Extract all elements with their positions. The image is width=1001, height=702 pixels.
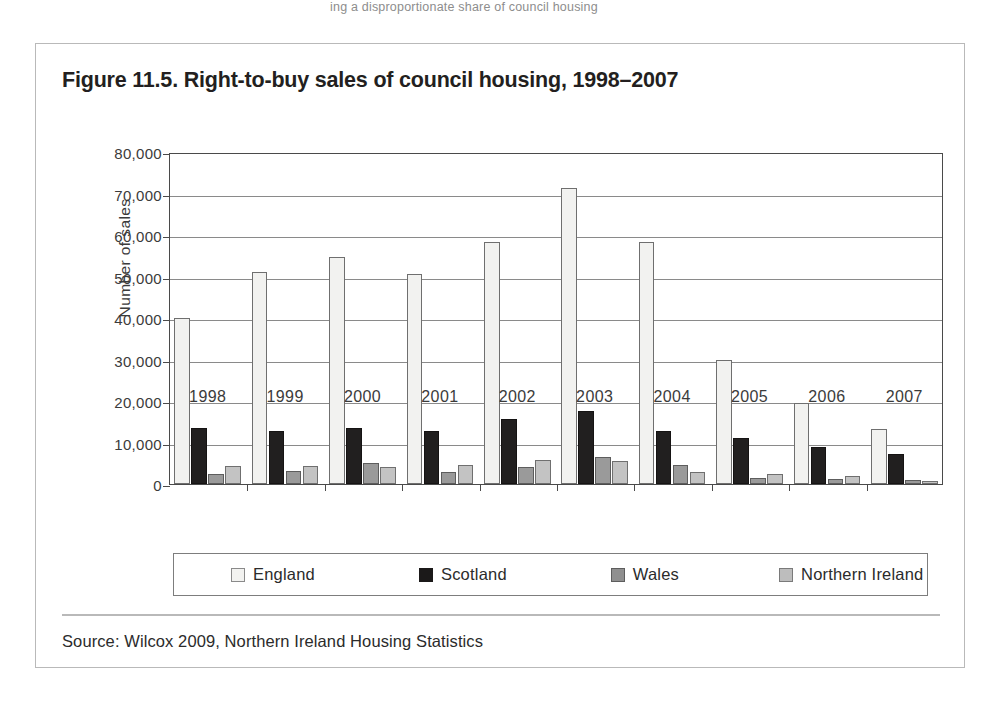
- y-axis-tick-label: 50,000: [114, 269, 162, 286]
- bar-ni-1998: [225, 466, 241, 484]
- bar-sco-2000: [346, 428, 362, 484]
- y-axis-tick: [163, 445, 170, 446]
- y-axis-tick: [163, 237, 170, 238]
- bar-eng-1999: [252, 272, 268, 484]
- x-axis-label-2004: 2004: [653, 388, 690, 406]
- bar-wal-2002: [518, 467, 534, 484]
- y-axis-tick-label: 80,000: [114, 145, 162, 162]
- bar-eng-2005: [716, 360, 732, 485]
- bar-ni-2006: [845, 476, 861, 484]
- x-axis-tick: [634, 484, 635, 491]
- y-axis-tick-label: 20,000: [114, 394, 162, 411]
- bar-eng-2001: [407, 274, 423, 484]
- bar-sco-2005: [733, 438, 749, 484]
- bar-sco-1998: [191, 428, 207, 484]
- bar-group-2001: [402, 154, 479, 484]
- bar-wal-2007: [905, 480, 921, 484]
- y-axis-labels: 80,00070,00060,00050,00040,00030,00020,0…: [36, 153, 162, 485]
- y-axis-tick-label: 60,000: [114, 228, 162, 245]
- y-axis-tick-label: 40,000: [114, 311, 162, 328]
- legend-swatch-ni: [779, 568, 793, 582]
- bar-group-2003: [557, 154, 634, 484]
- bar-sco-2006: [811, 447, 827, 484]
- bar-ni-1999: [303, 466, 319, 484]
- bar-group-2004: [634, 154, 711, 484]
- x-axis-tick: [480, 484, 481, 491]
- figure-source: Source: Wilcox 2009, Northern Ireland Ho…: [62, 632, 483, 651]
- bar-wal-2001: [441, 472, 457, 484]
- bar-eng-2007: [871, 429, 887, 484]
- bar-eng-2004: [639, 242, 655, 484]
- legend-item-sco[interactable]: Scotland: [419, 565, 507, 584]
- legend-item-ni[interactable]: Northern Ireland: [779, 565, 923, 584]
- bar-eng-2002: [484, 242, 500, 484]
- page-top-caption-text: ing a disproportionate share of council …: [330, 0, 598, 14]
- x-axis-label-2003: 2003: [576, 388, 613, 406]
- legend-swatch-wal: [611, 568, 625, 582]
- x-axis-label-1998: 1998: [189, 388, 226, 406]
- x-axis-label-2002: 2002: [499, 388, 536, 406]
- bar-sco-1999: [269, 431, 285, 484]
- bar-group-2002: [480, 154, 557, 484]
- y-axis-tick: [163, 486, 170, 487]
- legend-swatch-sco: [419, 568, 433, 582]
- bar-sco-2002: [501, 419, 517, 484]
- bar-wal-1998: [208, 474, 224, 484]
- y-axis-tick: [163, 362, 170, 363]
- bar-series-container: [170, 154, 942, 484]
- bar-group-2005: [712, 154, 789, 484]
- bar-wal-1999: [286, 471, 302, 484]
- source-divider: [62, 614, 940, 616]
- chart-plot-area: [169, 153, 943, 485]
- x-axis-tick: [557, 484, 558, 491]
- bar-sco-2003: [578, 411, 594, 484]
- bar-wal-2000: [363, 463, 379, 484]
- x-axis-tick: [712, 484, 713, 491]
- x-axis-label-1999: 1999: [266, 388, 303, 406]
- bar-sco-2007: [888, 454, 904, 484]
- x-axis-label-2001: 2001: [421, 388, 458, 406]
- legend-swatch-eng: [231, 568, 245, 582]
- x-axis-tick: [867, 484, 868, 491]
- bar-eng-2006: [794, 403, 810, 484]
- y-axis-tick: [163, 196, 170, 197]
- bar-wal-2006: [828, 479, 844, 484]
- bar-ni-2005: [767, 474, 783, 484]
- bar-eng-2003: [561, 188, 577, 484]
- x-axis-label-2007: 2007: [886, 388, 923, 406]
- bar-eng-2000: [329, 257, 345, 484]
- bar-group-1999: [247, 154, 324, 484]
- bar-ni-2002: [535, 460, 551, 484]
- bar-sco-2001: [424, 431, 440, 484]
- bar-ni-2004: [690, 472, 706, 484]
- x-axis-tick: [789, 484, 790, 491]
- y-axis-tick-label: 30,000: [114, 352, 162, 369]
- bar-group-2006: [789, 154, 866, 484]
- y-axis-tick: [163, 403, 170, 404]
- legend-label-ni: Northern Ireland: [801, 565, 923, 584]
- bar-sco-2004: [656, 431, 672, 484]
- bar-wal-2004: [673, 465, 689, 484]
- figure-title: Figure 11.5. Right-to-buy sales of counc…: [62, 68, 678, 93]
- bar-ni-2003: [612, 461, 628, 484]
- bar-ni-2007: [922, 481, 938, 484]
- figure-box: Figure 11.5. Right-to-buy sales of counc…: [35, 43, 965, 668]
- bar-wal-2005: [750, 478, 766, 484]
- x-axis-tick: [402, 484, 403, 491]
- bar-group-2007: [867, 154, 944, 484]
- bar-wal-2003: [595, 457, 611, 484]
- legend-item-eng[interactable]: England: [231, 565, 315, 584]
- x-axis-label-2006: 2006: [808, 388, 845, 406]
- bar-eng-1998: [174, 318, 190, 484]
- y-axis-tick: [163, 320, 170, 321]
- page-top-caption-strip: ing a disproportionate share of council …: [0, 0, 1001, 30]
- bar-group-2000: [325, 154, 402, 484]
- bar-ni-2001: [458, 465, 474, 485]
- legend-item-wal[interactable]: Wales: [611, 565, 679, 584]
- x-axis-tick: [325, 484, 326, 491]
- x-axis-label-2000: 2000: [344, 388, 381, 406]
- x-axis-label-2005: 2005: [731, 388, 768, 406]
- chart-legend: EnglandScotlandWalesNorthern Ireland: [173, 553, 928, 596]
- legend-label-sco: Scotland: [441, 565, 507, 584]
- y-axis-tick-label: 10,000: [114, 435, 162, 452]
